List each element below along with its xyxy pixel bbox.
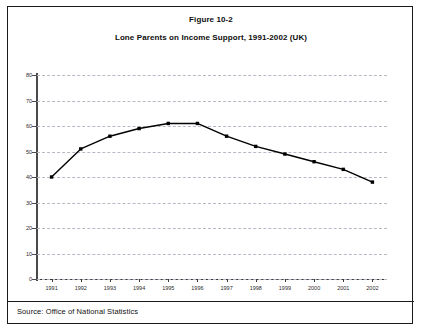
y-axis-tick (32, 101, 37, 102)
x-axis-tick (314, 279, 315, 282)
y-axis-tick (32, 126, 37, 127)
x-axis-tick-label: 1999 (270, 285, 300, 292)
y-axis-tick (32, 75, 37, 76)
x-axis-tick-label: 1998 (241, 285, 271, 292)
x-axis-tick-label: 2000 (299, 285, 329, 292)
x-axis-tick-label: 1992 (66, 285, 96, 292)
x-axis-tick (139, 279, 140, 282)
y-axis-tick (32, 177, 37, 178)
x-axis-tick (52, 279, 53, 282)
x-axis-tick-label: 1996 (182, 285, 212, 292)
data-point-marker (342, 168, 345, 171)
y-axis-tick (32, 279, 37, 280)
x-axis-tick-label: 1994 (124, 285, 154, 292)
x-axis-tick (197, 279, 198, 282)
y-axis-tick (32, 203, 37, 204)
data-point-marker (254, 145, 257, 148)
x-axis-tick-label: 1997 (212, 285, 242, 292)
data-point-marker (196, 122, 199, 125)
x-axis-tick-label: 1995 (153, 285, 183, 292)
x-axis-tick-label: 2002 (357, 285, 387, 292)
x-axis-tick (227, 279, 228, 282)
data-point-marker (312, 160, 315, 163)
figure-frame: Figure 10-2 Lone Parents on Income Suppo… (7, 6, 413, 324)
x-axis-tick (285, 279, 286, 282)
data-point-marker (108, 135, 111, 138)
x-axis-tick-label: 1991 (37, 285, 67, 292)
x-axis-tick (110, 279, 111, 282)
source-divider (8, 301, 414, 302)
data-point-marker (371, 180, 374, 183)
x-axis-tick (256, 279, 257, 282)
data-point-marker (167, 122, 170, 125)
x-axis-tick (81, 279, 82, 282)
figure-container: Figure 10-2 Lone Parents on Income Suppo… (0, 0, 421, 331)
data-point-marker (50, 175, 53, 178)
data-point-marker (79, 147, 82, 150)
x-axis-tick (343, 279, 344, 282)
y-axis-tick (32, 254, 37, 255)
x-axis-tick-label: 2001 (328, 285, 358, 292)
x-axis-tick-label: 1993 (95, 285, 125, 292)
x-axis-tick (372, 279, 373, 282)
y-axis-tick (32, 228, 37, 229)
data-point-marker (283, 152, 286, 155)
data-point-marker (225, 135, 228, 138)
x-axis-tick (168, 279, 169, 282)
data-series-line (8, 7, 414, 325)
data-point-marker (137, 127, 140, 130)
y-axis-tick (32, 152, 37, 153)
source-note: Source: Office of National Statistics (17, 307, 138, 316)
